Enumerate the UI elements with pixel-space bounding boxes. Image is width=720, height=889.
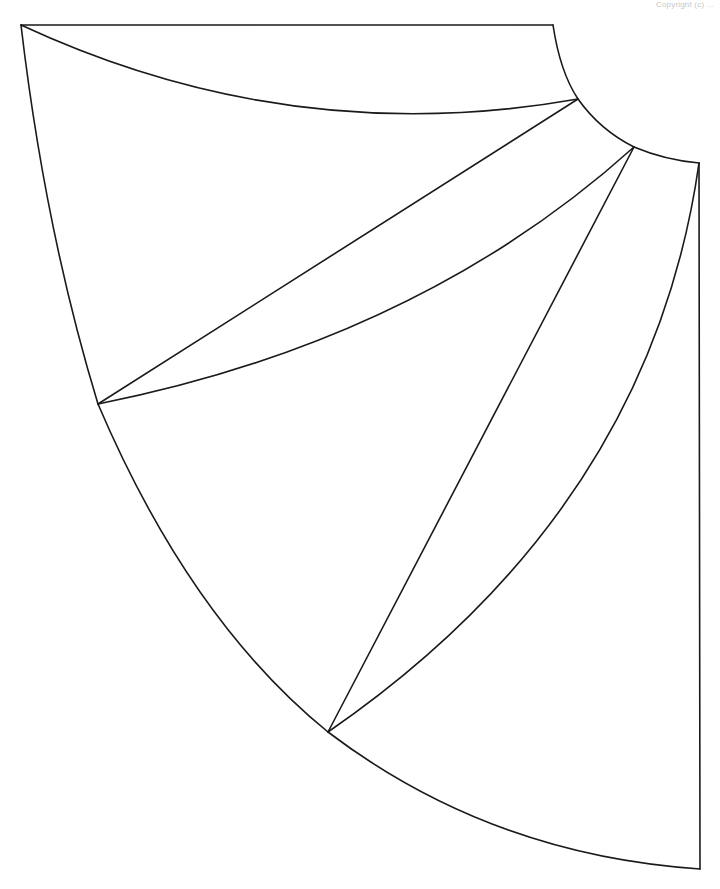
curve-topleft-to-inner1 <box>21 25 578 114</box>
inner-arc <box>553 25 699 163</box>
outer-arc <box>21 25 700 869</box>
line-inner1-to-outer1 <box>98 99 578 404</box>
curve-outer2-to-inner-end <box>328 163 699 732</box>
right-edge <box>699 163 700 869</box>
curve-outer1-to-inner2 <box>98 147 634 404</box>
line-inner2-to-outer2 <box>328 147 634 732</box>
pattern-diagram <box>0 0 720 889</box>
